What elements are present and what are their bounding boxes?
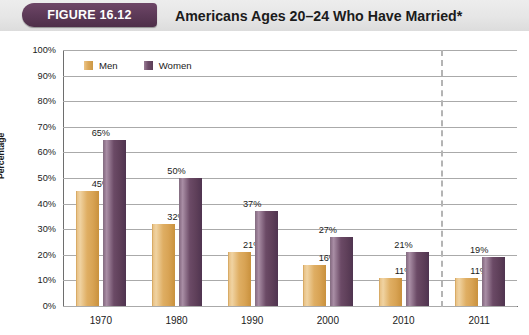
bar-value-label: 21% [394, 240, 412, 250]
gridline [63, 306, 517, 307]
bar-value-label: 19% [470, 245, 488, 255]
x-axis-tick-label: 2010 [392, 315, 414, 326]
bar-group: 21%37% [228, 50, 277, 306]
bar-group: 11%21% [379, 50, 428, 306]
bar-value-label: 65% [92, 128, 110, 138]
bar-value-label: 50% [167, 166, 185, 176]
gridline [63, 152, 517, 153]
gridline [63, 76, 517, 77]
bar-group: 16%27% [303, 50, 352, 306]
y-axis-tick-label: 90% [0, 71, 56, 81]
x-axis-tick-label: 1990 [241, 315, 263, 326]
bar-men-2010 [379, 278, 402, 306]
x-axis-tick-label: 2011 [468, 315, 490, 326]
figure-title: Americans Ages 20–24 Who Have Married* [175, 5, 462, 27]
figure-header: FIGURE 16.12 Americans Ages 20–24 Who Ha… [0, 0, 529, 31]
bar-women-2010 [406, 252, 429, 306]
gridline [63, 229, 517, 230]
bar-group: 45%65% [76, 50, 125, 306]
legend-swatch-men-icon [84, 61, 93, 70]
y-axis-tick-label: 50% [0, 173, 56, 183]
chart-area: Percentage 45%65%32%50%21%37%16%27%11%21… [0, 31, 529, 335]
chart-legend: Men Women [84, 60, 192, 71]
gridline [63, 280, 517, 281]
bar-value-label: 27% [319, 225, 337, 235]
year-divider-line [441, 50, 443, 307]
y-axis-tick-label: 70% [0, 122, 56, 132]
bar-men-2011 [455, 278, 478, 306]
y-axis-tick-label: 60% [0, 147, 56, 157]
bar-value-label: 37% [243, 199, 261, 209]
bar-men-2000 [303, 265, 326, 306]
bar-men-1980 [152, 224, 175, 306]
y-axis-tick-label: 30% [0, 224, 56, 234]
gridline [63, 101, 517, 102]
gridline [63, 255, 517, 256]
y-axis-tick-label: 0% [0, 301, 56, 311]
y-axis-tick-label: 20% [0, 250, 56, 260]
bar-women-2011 [482, 257, 505, 306]
legend-label-women: Women [159, 60, 192, 71]
y-axis-tick-label: 40% [0, 199, 56, 209]
bar-women-1990 [255, 211, 278, 306]
y-axis-tick-label: 100% [0, 45, 56, 55]
figure-number-badge: FIGURE 16.12 [22, 3, 157, 27]
bar-women-1970 [103, 140, 126, 306]
bar-men-1990 [228, 252, 251, 306]
bar-women-1980 [179, 178, 202, 306]
x-axis-tick-label: 2000 [317, 315, 339, 326]
y-axis-tick-label: 10% [0, 275, 56, 285]
gridline [63, 127, 517, 128]
bar-men-1970 [76, 191, 99, 306]
gridline [63, 178, 517, 179]
legend-label-men: Men [99, 60, 118, 71]
bar-group: 32%50% [152, 50, 201, 306]
x-axis-tick-label: 1980 [165, 315, 187, 326]
legend-swatch-women-icon [144, 61, 153, 70]
plot-area: 45%65%32%50%21%37%16%27%11%21%11%19% [63, 50, 517, 306]
legend-entry-men: Men [84, 60, 118, 71]
legend-entry-women: Women [144, 60, 192, 71]
gridline [63, 50, 517, 51]
y-axis-tick-label: 80% [0, 96, 56, 106]
x-axis-tick-label: 1970 [90, 315, 112, 326]
bar-group: 11%19% [455, 50, 504, 306]
bar-women-2000 [330, 237, 353, 306]
gridline [63, 204, 517, 205]
figure-number-label: FIGURE 16.12 [22, 3, 157, 27]
